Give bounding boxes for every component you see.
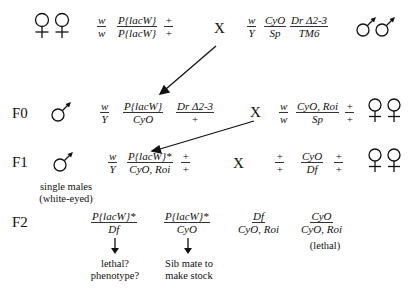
f0-male-genotype-chr3: Dr Δ2-3 + [176,100,214,125]
f1-male-note: single males (white-eyed) [30,181,102,205]
f2-progeny-lacw-df: P{lacW}* Df [91,210,137,235]
f1-male-genotype-chr2: P{lacW}* CyO, Roi [127,150,173,175]
down-arrow-icon [111,238,119,254]
f1-male-genotype-x: w Y [108,150,117,175]
f2-progeny-lacw-cyo: P{lacW}* CyO [164,210,210,235]
f2-note-sib-mate: Sib mate to make stock [156,258,222,282]
f0-male-genotype-x: w Y [100,100,109,125]
f1-female-genotype-chr2: CyO Df [301,150,323,175]
male-symbol [50,99,76,123]
male-symbol [52,149,78,173]
f0-female-genotype-chr3: + + [345,100,354,125]
generation-label-f2: F2 [12,214,28,231]
arrow-p-to-f0 [166,46,216,89]
generation-label-f1: F1 [12,154,28,171]
down-arrow-icon [184,238,192,254]
cross-arrows [0,0,415,296]
f2-note-lethal: (lethal) [300,240,350,252]
f2-progeny-cyo-cyo-roi: CyO CyO, Roi [300,210,343,235]
f2-progeny-df-cyo-roi: Df CyO, Roi [237,210,280,235]
f0-male-genotype-chr2: P{lacW} CyO [123,100,163,125]
f0-cross-symbol: X [250,104,261,121]
f1-cross-symbol: X [233,155,244,172]
f1-female-genotype-x: + + [275,150,284,175]
f1-female-genotype-chr3: + + [334,150,343,175]
f0-female-genotype-chr2: CyO, Roi Sp [296,100,339,125]
f0-female-genotype-x: w w [279,100,288,125]
arrow-f0-to-f1 [160,121,254,149]
female-female-symbol [366,97,410,127]
f2-note-lethal-phenotype: lethal? phenotype? [80,258,150,282]
f1-male-genotype-chr3: + + [181,150,190,175]
generation-label-f0: F0 [12,105,28,122]
female-female-symbol [366,147,410,177]
